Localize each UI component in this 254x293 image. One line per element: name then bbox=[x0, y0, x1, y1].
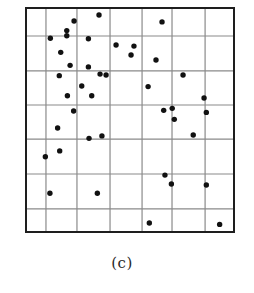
data-point bbox=[147, 220, 152, 225]
data-point bbox=[191, 132, 196, 137]
data-point bbox=[170, 106, 175, 111]
plot-background bbox=[26, 8, 234, 232]
data-point bbox=[57, 148, 62, 153]
data-point bbox=[159, 19, 164, 24]
data-point bbox=[131, 43, 136, 48]
data-point bbox=[128, 52, 133, 57]
data-point bbox=[97, 71, 102, 76]
data-point bbox=[99, 133, 104, 138]
data-point bbox=[86, 136, 91, 141]
data-point bbox=[64, 33, 69, 38]
data-point bbox=[153, 57, 158, 62]
data-point bbox=[57, 73, 62, 78]
data-point bbox=[64, 28, 69, 33]
data-point bbox=[204, 182, 209, 187]
data-point bbox=[113, 42, 118, 47]
data-point bbox=[71, 18, 76, 23]
data-point bbox=[95, 191, 100, 196]
data-point bbox=[89, 93, 94, 98]
data-point bbox=[201, 95, 206, 100]
data-point bbox=[180, 72, 185, 77]
data-point bbox=[103, 72, 108, 77]
data-point bbox=[58, 50, 63, 55]
data-point bbox=[217, 222, 222, 227]
data-point bbox=[86, 36, 91, 41]
data-point bbox=[161, 108, 166, 113]
data-point bbox=[43, 154, 48, 159]
figure-caption: (c) bbox=[0, 254, 244, 272]
data-point bbox=[86, 64, 91, 69]
data-point bbox=[162, 172, 167, 177]
data-point bbox=[71, 108, 76, 113]
scatter-plot bbox=[0, 0, 254, 245]
data-point bbox=[145, 84, 150, 89]
data-point bbox=[47, 191, 52, 196]
data-point bbox=[67, 63, 72, 68]
data-point bbox=[96, 12, 101, 17]
scatter-figure: (c) bbox=[0, 0, 254, 293]
data-point bbox=[172, 117, 177, 122]
data-point bbox=[65, 93, 70, 98]
data-point bbox=[79, 83, 84, 88]
data-point bbox=[55, 125, 60, 130]
data-point bbox=[169, 181, 174, 186]
data-point bbox=[204, 110, 209, 115]
data-point bbox=[48, 36, 53, 41]
